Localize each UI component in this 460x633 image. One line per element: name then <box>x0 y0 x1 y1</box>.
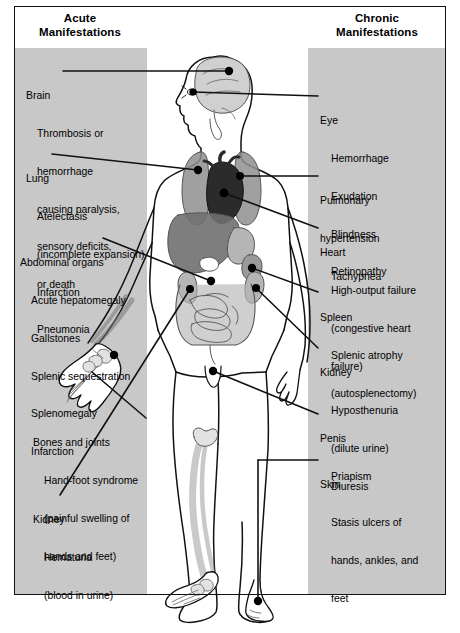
label-kidney-chronic-organ: Kidney <box>320 367 398 380</box>
label-abdominal-organ: Abdominal organs <box>20 257 130 270</box>
label-penis-organ: Penis <box>320 433 371 446</box>
label-skin: Skin Stasis ulcers of hands, ankles, and… <box>320 454 418 630</box>
label-abdominal-detail-0: Acute hepatomegaly <box>20 295 130 308</box>
label-skin-detail-1: hands, ankles, and <box>320 555 418 568</box>
label-lung-organ: Lung <box>26 173 144 186</box>
label-heart-organ: Heart <box>320 247 416 260</box>
label-abdominal-detail-1: Gallstones <box>20 333 130 346</box>
label-kidney-acute-detail-1: (blood in urine) <box>33 590 113 603</box>
label-bones-detail-0: Hand-foot syndrome <box>33 475 138 488</box>
label-skin-organ: Skin <box>320 479 418 492</box>
label-kidney-acute-detail-0: Hematuria <box>33 552 113 565</box>
label-kidney-acute: Kidney Hematuria (blood in urine) <box>33 489 113 628</box>
acute-column-title: Acute Manifestations <box>14 12 146 39</box>
label-pulmonary-organ: Pulmonary <box>320 195 381 208</box>
chronic-title-line2: Manifestations <box>336 26 418 38</box>
label-eye-organ: Eye <box>320 115 389 128</box>
label-eye-detail-0: Hemorrhage <box>320 153 389 166</box>
label-bones-organ: Bones and joints <box>33 437 138 450</box>
label-brain-detail-0: Thrombosis or <box>26 128 120 141</box>
label-lung-detail-0: Atelectasis <box>26 211 144 224</box>
label-skin-detail-0: Stasis ulcers of <box>320 517 418 530</box>
sickle-cell-manifestations-diagram: Acute Manifestations Chronic Manifestati… <box>0 0 460 633</box>
chronic-column-title: Chronic Manifestations <box>308 12 446 39</box>
label-brain-organ: Brain <box>26 90 120 103</box>
acute-title-line1: Acute <box>64 12 96 24</box>
chronic-title-line1: Chronic <box>355 12 399 24</box>
label-spleen-organ: Spleen <box>320 312 416 325</box>
label-abdominal-detail-2: Splenic sequestration <box>20 371 130 384</box>
label-kidney-acute-organ: Kidney <box>33 514 113 527</box>
label-skin-detail-2: feet <box>320 593 418 606</box>
acute-title-line2: Manifestations <box>39 26 121 38</box>
column-headers: Acute Manifestations Chronic Manifestati… <box>0 0 460 48</box>
